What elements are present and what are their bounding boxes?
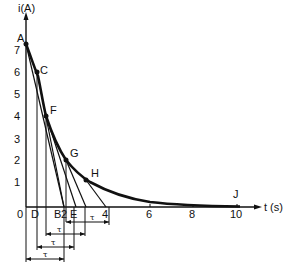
label-F: F: [50, 104, 57, 116]
label-E: E: [70, 208, 77, 220]
tau-label-2: τ: [57, 225, 62, 234]
tau-label-3: τ: [51, 238, 56, 247]
point-C: [35, 70, 40, 75]
x-tick-6: 6: [146, 208, 152, 220]
tangent-C: [37, 72, 64, 207]
label-A: A: [17, 32, 25, 44]
y-tick-4: 4: [14, 110, 20, 122]
label-C: C: [40, 64, 48, 76]
tau-dimension-4: τ: [26, 250, 64, 261]
x-tick-0: 0: [17, 208, 23, 220]
tau-dimension-3: τ: [37, 238, 74, 249]
decay-chart: i(A) t (s) 7 6 5 4 3 2 1 0 2 4 6 8 10 τ …: [0, 0, 295, 270]
tangent-G: [66, 160, 86, 207]
x-tick-4: 4: [102, 208, 108, 220]
y-tick-7: 7: [14, 44, 20, 56]
y-tick-2: 2: [14, 154, 20, 166]
x-axis-label: t (s): [264, 201, 283, 213]
tau-label-1: τ: [90, 213, 95, 222]
y-tick-3: 3: [14, 133, 20, 145]
tau-label-4: τ: [43, 250, 48, 259]
x-tick-8: 8: [189, 208, 195, 220]
point-F: [44, 114, 49, 119]
y-axis-label: i(A): [18, 2, 35, 14]
y-tick-5: 5: [14, 88, 20, 100]
x-tick-10: 10: [230, 208, 242, 220]
point-G: [64, 158, 69, 163]
chart-svg: i(A) t (s) 7 6 5 4 3 2 1 0 2 4 6 8 10 τ …: [0, 0, 295, 270]
y-tick-6: 6: [14, 66, 20, 78]
y-tick-1: 1: [14, 176, 20, 188]
tau-dimension-2: τ: [46, 225, 85, 236]
label-B: B: [54, 208, 61, 220]
x-axis-arrow-icon: [254, 205, 262, 210]
label-J: J: [233, 188, 239, 200]
label-H: H: [91, 167, 99, 179]
label-D: D: [31, 208, 39, 220]
label-G: G: [70, 147, 79, 159]
point-H: [84, 178, 89, 183]
